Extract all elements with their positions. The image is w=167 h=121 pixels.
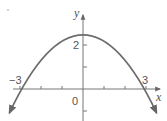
y-axis-label: y (73, 6, 80, 20)
x-axis-label: x (155, 90, 162, 104)
chart-canvas: y x −3 3 0 2 (0, 0, 167, 121)
tick-label-0: 0 (72, 95, 78, 107)
dot-mark (7, 9, 9, 11)
y-ticks (83, 45, 87, 111)
tick-label-neg-3: −3 (9, 74, 22, 86)
tick-label-2: 2 (73, 39, 79, 51)
tick-label-3: 3 (142, 74, 148, 86)
